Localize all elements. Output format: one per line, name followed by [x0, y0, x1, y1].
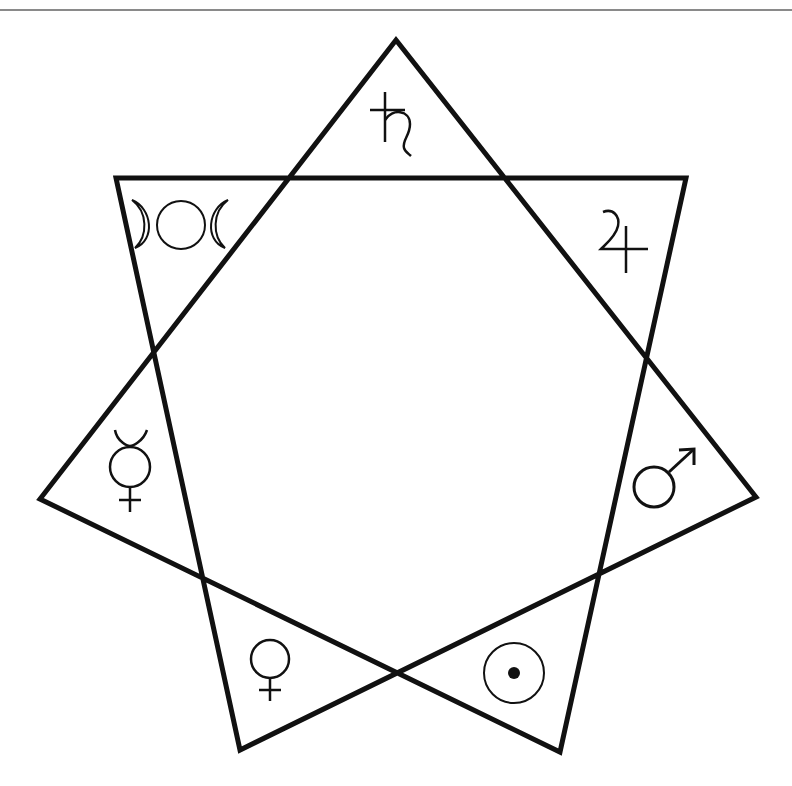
mercury-icon: [110, 430, 150, 512]
mars-icon: [634, 449, 694, 507]
heptagram-star: [40, 40, 756, 752]
heptagram-figure: [0, 0, 792, 786]
sun-icon: [484, 643, 544, 703]
saturn-icon: [370, 92, 411, 156]
triple-moon-icon: [132, 200, 228, 249]
venus-icon: [251, 640, 289, 701]
jupiter-icon: [601, 211, 648, 273]
